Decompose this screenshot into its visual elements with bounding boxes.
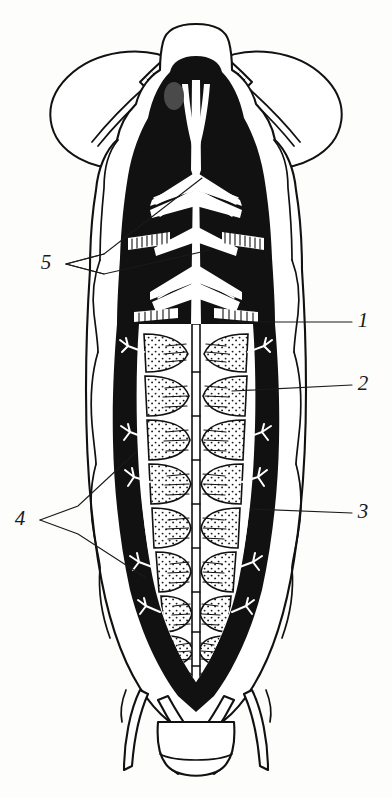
- label-1: 1: [358, 308, 369, 332]
- label-2: 2: [358, 371, 369, 395]
- anatomical-figure: 1 2 3 4 5: [0, 0, 392, 798]
- terminal-segment: [158, 722, 235, 776]
- label-5: 5: [41, 250, 52, 274]
- label-4: 4: [15, 506, 26, 530]
- label-3: 3: [357, 499, 369, 523]
- median-nerve-cord: [192, 324, 200, 692]
- eye-spot: [164, 82, 184, 110]
- figure-root: 1 2 3 4 5: [0, 0, 392, 798]
